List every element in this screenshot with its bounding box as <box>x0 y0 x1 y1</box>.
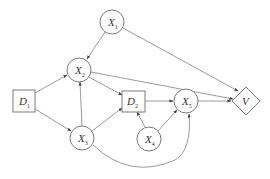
edge-x4-x5 <box>158 110 177 131</box>
edge-x1-x2 <box>87 32 105 59</box>
node-v: V <box>232 87 260 115</box>
edge-x2-v <box>91 72 233 99</box>
influence-diagram: X1 X2 D1 X3 D2 X5 X4 V <box>0 0 270 179</box>
node-d1-label: D <box>18 95 27 107</box>
node-x1: X1 <box>100 10 124 34</box>
edge-x3-d2 <box>92 108 122 131</box>
node-x4: X4 <box>137 127 161 151</box>
edge-x4-d2 <box>137 112 145 127</box>
node-x5: X5 <box>174 89 198 113</box>
edge-d1-x2 <box>35 75 67 93</box>
node-x3: X3 <box>70 126 94 150</box>
node-d1: D1 <box>13 90 35 112</box>
node-x2: X2 <box>67 58 91 82</box>
node-d2-label: D <box>126 95 135 107</box>
edge-x3-x2 <box>80 82 82 126</box>
edge-x2-d2 <box>89 77 122 95</box>
edge-d1-x3 <box>35 109 71 131</box>
node-d2: D2 <box>122 91 145 112</box>
